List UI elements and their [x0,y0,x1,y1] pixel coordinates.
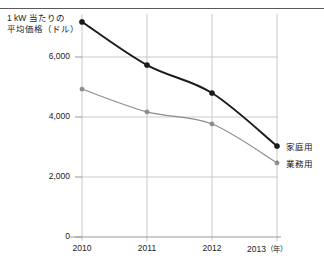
y-tick-label: 4,000 [30,111,70,121]
x-axis-unit-label: （年） [266,245,287,254]
series-layer [79,19,279,165]
x-tick-label: 2013（年） [247,243,303,254]
y-tick-label: 6,000 [30,51,70,61]
x-tick-label-text: 2013 [247,244,266,254]
data-point-marker [79,19,84,24]
x-tick-label: 2011 [122,243,172,253]
y-tick-label: 2,000 [30,171,70,181]
data-point-marker [144,63,149,68]
data-point-marker [80,87,84,91]
data-point-marker [209,90,214,95]
series-label-secondary: 業務用 [286,157,313,169]
series-line [82,22,277,146]
data-point-marker [275,161,279,165]
series-line [82,89,277,163]
figure-container: 1 kW 当たりの 平均価格（ドル） 02,0004,0006,000 2010… [0,0,324,278]
data-point-marker [210,122,214,126]
y-tick-label: 0 [30,231,70,241]
series-label-primary: 家庭用 [286,140,313,152]
x-tick-label: 2012 [187,243,237,253]
gridlines [81,14,278,241]
data-point-marker [145,110,149,114]
axis-lines [70,57,281,237]
x-tick-label: 2010 [57,243,107,253]
data-point-marker [274,144,279,149]
